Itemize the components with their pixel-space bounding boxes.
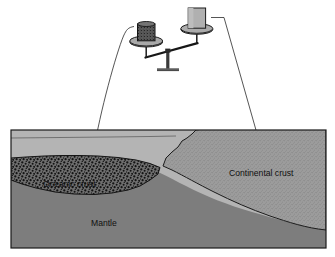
continental-crust-label: Continental crust (229, 168, 294, 178)
figure-canvas: Oceanic crust Continental crust Mantle (0, 0, 335, 257)
isostasy-diagram: Oceanic crust Continental crust Mantle (0, 0, 335, 257)
mantle-label: Mantle (91, 218, 117, 228)
oceanic-crust-label: Oceanic crust (43, 179, 96, 189)
